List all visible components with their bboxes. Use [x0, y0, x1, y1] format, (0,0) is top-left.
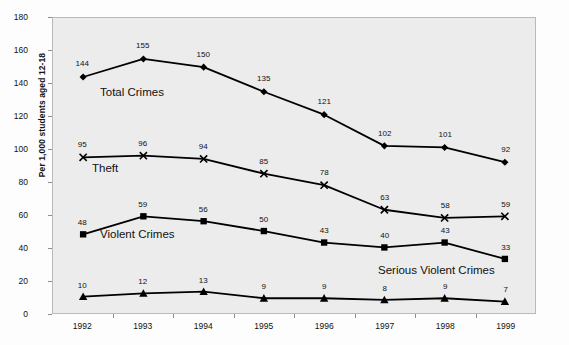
data-value-label: 59: [501, 201, 510, 209]
y-tick-label-180: 180: [0, 13, 28, 22]
data-point-marker: [502, 256, 508, 262]
data-point-marker: [80, 73, 87, 80]
data-point-marker: [501, 159, 508, 166]
x-tick-mark: [234, 314, 235, 318]
data-value-label: 59: [138, 201, 147, 209]
x-tick-mark: [415, 314, 416, 318]
data-point-marker: [381, 142, 388, 149]
data-value-label: 101: [439, 131, 452, 139]
data-value-label: 135: [257, 75, 270, 83]
data-value-label: 9: [262, 283, 266, 291]
y-tick-label-0: 0: [0, 310, 28, 319]
x-tick-label-1996: 1996: [300, 322, 348, 331]
data-value-label: 56: [199, 206, 208, 214]
y-tick-label-120: 120: [0, 112, 28, 121]
data-value-label: 43: [320, 227, 329, 235]
series-annotation-serious-violent-crimes: Serious Violent Crimes: [378, 265, 495, 277]
data-point-marker: [200, 64, 207, 71]
data-value-label: 12: [138, 278, 147, 286]
crime-rate-line-chart: Per 1,000 students aged 12-18 1801601401…: [0, 0, 569, 345]
data-value-label: 33: [501, 244, 510, 252]
data-value-label: 10: [78, 282, 87, 290]
data-value-label: 48: [78, 219, 87, 227]
series-theft: [80, 152, 509, 221]
series-annotation-total-crimes: Total Crimes: [100, 87, 164, 99]
data-point-marker: [260, 88, 267, 95]
data-value-label: 85: [259, 158, 268, 166]
x-tick-mark: [476, 314, 477, 318]
y-tick-label-160: 160: [0, 46, 28, 55]
data-point-marker: [200, 218, 206, 224]
x-tick-label-1997: 1997: [361, 322, 409, 331]
data-value-label: 102: [378, 130, 391, 138]
x-tick-mark: [355, 314, 356, 318]
y-tick-mark: [48, 314, 52, 315]
series-total-crimes: [80, 55, 509, 165]
y-tick-label-100: 100: [0, 145, 28, 154]
data-value-label: 7: [504, 286, 508, 294]
data-point-marker: [261, 228, 267, 234]
y-tick-label-140: 140: [0, 79, 28, 88]
data-value-label: 96: [138, 140, 147, 148]
data-value-label: 63: [380, 194, 389, 202]
series-annotation-theft: Theft: [92, 163, 118, 175]
data-point-marker: [140, 55, 147, 62]
data-value-label: 8: [383, 285, 387, 293]
y-tick-label-80: 80: [0, 178, 28, 187]
data-value-label: 94: [199, 143, 208, 151]
x-tick-label-1994: 1994: [179, 322, 227, 331]
data-value-label: 9: [443, 283, 447, 291]
data-value-label: 43: [441, 227, 450, 235]
data-value-label: 121: [318, 98, 331, 106]
x-tick-mark: [173, 314, 174, 318]
x-tick-label-1999: 1999: [482, 322, 530, 331]
data-value-label: 40: [380, 232, 389, 240]
data-point-marker: [321, 239, 327, 245]
data-point-marker: [441, 144, 448, 151]
data-value-label: 95: [78, 141, 87, 149]
data-value-label: 92: [501, 146, 510, 154]
data-value-label: 13: [199, 277, 208, 285]
data-value-label: 144: [76, 60, 89, 68]
data-point-marker: [441, 239, 447, 245]
data-value-label: 78: [320, 169, 329, 177]
x-tick-mark: [113, 314, 114, 318]
x-tick-mark: [294, 314, 295, 318]
data-value-label: 50: [259, 216, 268, 224]
x-tick-label-1995: 1995: [240, 322, 288, 331]
y-tick-label-60: 60: [0, 211, 28, 220]
x-tick-label-1992: 1992: [58, 322, 106, 331]
data-value-label: 155: [136, 42, 149, 50]
y-axis-title: Per 1,000 students aged 12-18: [37, 25, 47, 205]
data-point-marker: [80, 231, 86, 237]
data-value-label: 150: [197, 51, 210, 59]
data-value-label: 58: [441, 202, 450, 210]
data-value-label: 9: [322, 283, 326, 291]
data-point-marker: [140, 213, 146, 219]
y-tick-label-40: 40: [0, 244, 28, 253]
series-annotation-violent-crimes: Violent Crimes: [100, 229, 175, 241]
y-tick-label-20: 20: [0, 277, 28, 286]
data-point-marker: [321, 111, 328, 118]
x-tick-label-1998: 1998: [421, 322, 469, 331]
x-tick-label-1993: 1993: [119, 322, 167, 331]
data-point-marker: [381, 244, 387, 250]
